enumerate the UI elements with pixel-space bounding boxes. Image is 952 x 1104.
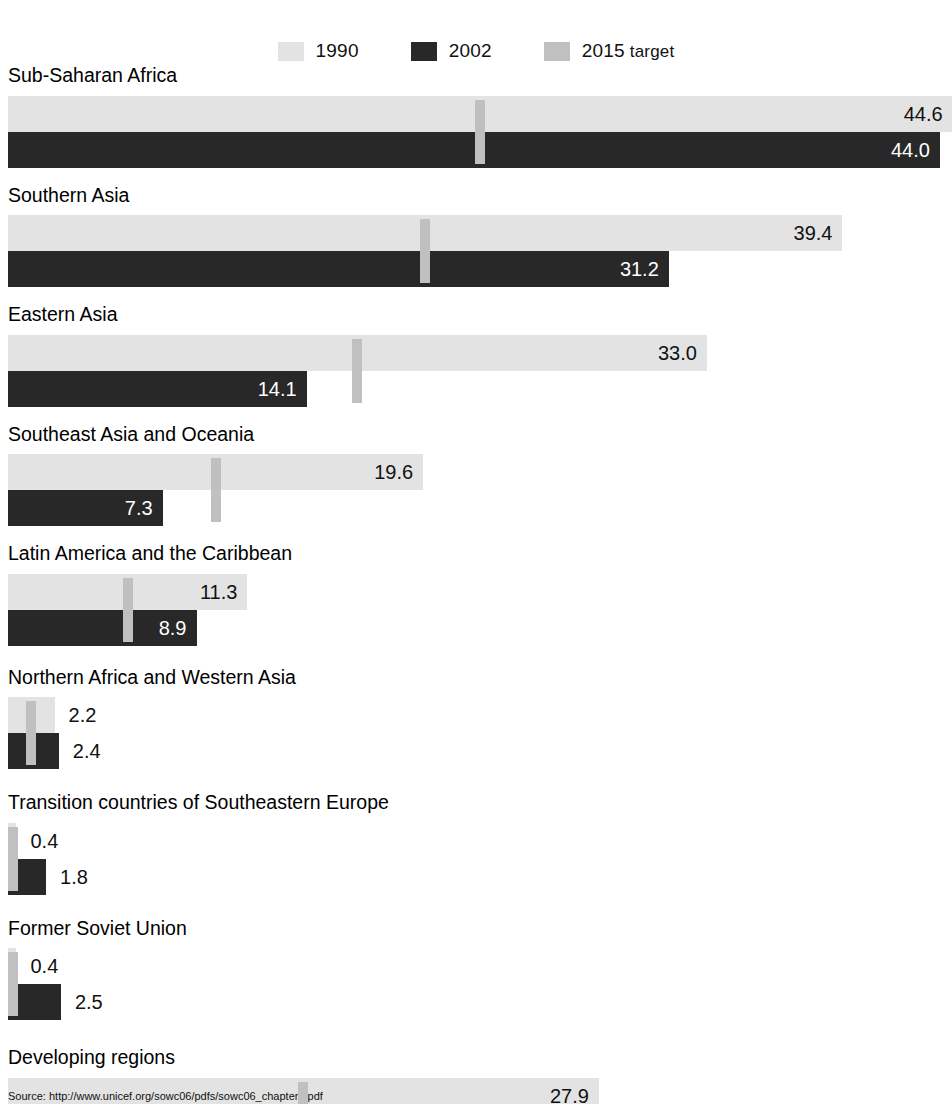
bar-value-1990: 39.4 (784, 215, 832, 251)
bar-row-1990: 33.0 (0, 335, 952, 371)
legend-item-1990: 1990 (278, 40, 359, 62)
bar-value-2002: 7.3 (105, 490, 153, 526)
bar-pair: 0.41.8 (0, 823, 952, 895)
category-label: Northern Africa and Western Asia (0, 668, 952, 688)
bar-value-2002: 14.1 (249, 371, 297, 407)
target-marker-2015 (475, 100, 485, 164)
category-label: Southern Asia (0, 186, 952, 206)
bar-group: Latin America and the Caribbean11.38.9 (0, 544, 952, 646)
bar-row-2002: 2.4 (0, 733, 952, 769)
category-label: Transition countries of Southeastern Eur… (0, 793, 952, 813)
bar-row-1990: 2.2 (0, 697, 952, 733)
bar-value-2002: 1.8 (60, 859, 88, 895)
target-marker-2015 (298, 1082, 308, 1104)
target-marker-2015 (26, 701, 36, 765)
bar-value-1990: 33.0 (649, 335, 697, 371)
bar-pair: 2.22.4 (0, 697, 952, 769)
category-label: Former Soviet Union (0, 919, 952, 939)
target-marker-2015 (420, 219, 430, 283)
target-marker-2015 (8, 952, 18, 1016)
bar-group: Northern Africa and Western Asia2.22.4 (0, 668, 952, 770)
bar-group: Former Soviet Union0.42.5 (0, 919, 952, 1021)
bar-row-1990: 0.4 (0, 823, 952, 859)
bar-row-1990: 0.4 (0, 948, 952, 984)
category-label: Latin America and the Caribbean (0, 544, 952, 564)
bar-pair: 0.42.5 (0, 948, 952, 1020)
bar-value-1990: 2.2 (69, 697, 97, 733)
target-marker-2015 (8, 827, 18, 891)
target-marker-2015 (123, 578, 133, 642)
category-label: Eastern Asia (0, 305, 952, 325)
bar-value-2002: 2.4 (73, 733, 101, 769)
bar-group: Eastern Asia33.014.1 (0, 305, 952, 407)
bar-value-1990: 0.4 (30, 823, 58, 859)
legend-label-2015-target: 2015 target (582, 40, 675, 62)
target-marker-2015 (352, 339, 362, 403)
bar-row-2002: 8.9 (0, 610, 952, 646)
bar-pair: 11.38.9 (0, 574, 952, 646)
bar-group: Sub-Saharan Africa44.644.0 (0, 66, 952, 168)
source-note: Source: http://www.unicef.org/sowc06/pdf… (8, 1090, 952, 1104)
bar-row-2002: 31.2 (0, 251, 952, 287)
bar-pair: 44.644.0 (0, 96, 952, 168)
bar-value-1990: 44.6 (895, 96, 943, 132)
bar-row-2002: 1.8 (0, 859, 952, 895)
bar-value-2002: 8.9 (139, 610, 187, 646)
bar-group: Southern Asia39.431.2 (0, 186, 952, 288)
category-label: Developing regions (0, 1048, 952, 1068)
bar-row-1990: 19.6 (0, 454, 952, 490)
category-label: Southeast Asia and Oceania (0, 425, 952, 445)
bar-group: Transition countries of Southeastern Eur… (0, 793, 952, 895)
legend-item-2002: 2002 (411, 40, 492, 62)
chart-legend: 1990 2002 2015 target (0, 36, 952, 66)
legend-item-2015-target: 2015 target (544, 40, 675, 62)
bar-pair: 19.67.3 (0, 454, 952, 526)
bar-row-2002: 7.3 (0, 490, 952, 526)
bar-2002[interactable] (8, 132, 940, 168)
bar-value-2002: 44.0 (882, 132, 930, 168)
target-marker-2015 (211, 458, 221, 522)
legend-swatch-2002 (411, 42, 437, 61)
bar-value-2002: 2.5 (75, 984, 103, 1020)
legend-label-2002: 2002 (449, 40, 492, 62)
bar-group: Southeast Asia and Oceania19.67.3 (0, 425, 952, 527)
bar-value-1990: 0.4 (30, 948, 58, 984)
bar-row-2002: 2.5 (0, 984, 952, 1020)
category-label: Sub-Saharan Africa (0, 66, 952, 86)
bar-row-1990: 39.4 (0, 215, 952, 251)
bar-value-1990: 11.3 (189, 574, 237, 610)
bar-row-2002: 14.1 (0, 371, 952, 407)
legend-swatch-1990 (278, 42, 304, 61)
bar-value-2002: 31.2 (611, 251, 659, 287)
legend-label-1990: 1990 (316, 40, 359, 62)
bar-row-1990: 11.3 (0, 574, 952, 610)
bar-pair: 33.014.1 (0, 335, 952, 407)
legend-swatch-2015-target (544, 42, 570, 61)
bar-value-1990: 19.6 (365, 454, 413, 490)
bar-2002[interactable] (8, 251, 669, 287)
bar-chart: Sub-Saharan Africa44.644.0Southern Asia3… (0, 66, 952, 1104)
bar-pair: 39.431.2 (0, 215, 952, 287)
